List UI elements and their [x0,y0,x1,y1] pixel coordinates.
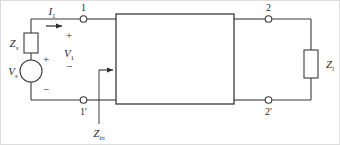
two-port-network-box [116,14,234,104]
load-impedance-label: Zl [326,58,334,73]
source-minus-sign: − [43,83,49,95]
node-label-2: 2 [266,2,271,13]
port1-minus-sign: − [66,60,72,72]
terminal-node-1 [80,16,87,23]
source-plus-sign: + [43,53,49,65]
source-impedance-label: Zs [10,37,19,52]
circuit-diagram-figure: I1 1 1' 2 2' Zs Vs + − + V1 − Zin Zl [0,0,340,145]
terminal-node-2-prime [265,97,272,104]
node-label-2-prime: 2' [265,106,272,117]
terminal-node-2 [265,16,272,23]
load-impedance-element [304,50,318,78]
port1-plus-sign: + [66,29,72,41]
terminal-node-1-prime [80,97,87,104]
input-impedance-label: Zin [93,127,105,142]
circuit-schematic-canvas: I1 1 1' 2 2' Zs Vs + − + V1 − Zin Zl [0,0,340,145]
current-label: I1 [47,5,56,20]
source-impedance-element [24,33,38,53]
source-voltage-label: Vs [8,65,18,80]
voltage-source-element [20,60,42,82]
node-label-1-prime: 1' [80,106,87,117]
node-label-1: 1 [81,2,86,13]
